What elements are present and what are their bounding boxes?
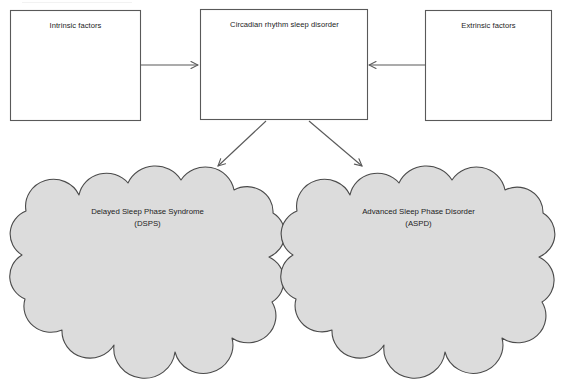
cloud-label-delayed-sleep-phase-syndrome: Delayed Sleep Phase Syndrome (DSPS) xyxy=(45,206,250,229)
cloud-advanced-sleep-phase-disorder xyxy=(281,166,555,378)
cloud-label-dsps-line1: Delayed Sleep Phase Syndrome xyxy=(45,206,250,218)
cloud-label-advanced-sleep-phase-disorder: Advanced Sleep Phase Disorder (ASPD) xyxy=(316,206,521,229)
box-intrinsic-factors xyxy=(11,11,141,121)
arrow-circadian-to-aspd xyxy=(309,121,362,166)
cloud-label-aspd-line2: (ASPD) xyxy=(316,218,521,230)
box-circadian-rhythm-sleep-disorder xyxy=(201,10,368,120)
diagram-canvas: Intrinsic factors Circadian rhythm sleep… xyxy=(0,0,561,388)
cloud-label-dsps-line2: (DSPS) xyxy=(45,218,250,230)
diagram-graphics xyxy=(0,0,561,388)
cloud-label-aspd-line1: Advanced Sleep Phase Disorder xyxy=(316,206,521,218)
box-extrinsic-factors xyxy=(426,11,552,121)
arrow-circadian-to-dsps xyxy=(218,121,266,166)
cloud-delayed-sleep-phase-syndrome xyxy=(10,166,285,378)
